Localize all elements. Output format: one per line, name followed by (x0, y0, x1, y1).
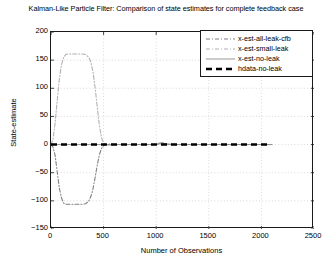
legend-item-x-est-small-leak[interactable]: x-est-small-leak (201, 44, 312, 54)
y-tick-0: 0 (2, 140, 48, 148)
x-tick-2500: 2500 (293, 232, 332, 240)
chart-title: Kalman-Like Particle Filter: Comparison … (0, 4, 332, 13)
legend-label: x-est-small-leak (238, 45, 288, 53)
legend[interactable]: x-est-all-leak-cfbx-est-small-leakx-est-… (200, 30, 313, 77)
legend-item-x-est-no-leak[interactable]: x-est-no-leak (201, 54, 312, 64)
legend-item-x-est-all-leak-cfb[interactable]: x-est-all-leak-cfb (201, 34, 312, 44)
y-tick-50: 50 (2, 111, 48, 119)
legend-item-hdata-no-leak[interactable]: hdata-no-leak (201, 64, 312, 74)
x-tick-1500: 1500 (188, 232, 228, 240)
x-axis-label: Number of Observations (50, 246, 313, 255)
x-tick-0: 0 (30, 232, 70, 240)
legend-line-sample-icon (205, 44, 236, 54)
x-tick-500: 500 (83, 232, 123, 240)
series-x-est-all-leak-cfb (51, 142, 272, 204)
x-tick-1000: 1000 (135, 232, 175, 240)
y-tick-100: 100 (2, 83, 48, 91)
x-axis-tick-labels: 05001000150020002500 (50, 232, 313, 244)
y-tick--50: −50 (2, 168, 48, 176)
y-axis-tick-labels: −150−100−50050100150200 (0, 31, 48, 228)
x-tick-2000: 2000 (240, 232, 280, 240)
legend-line-sample-icon (205, 34, 236, 44)
legend-label: hdata-no-leak (238, 65, 282, 73)
legend-line-sample-icon (205, 64, 236, 74)
y-tick-200: 200 (2, 27, 48, 35)
legend-label: x-est-no-leak (238, 55, 280, 63)
legend-line-sample-icon (205, 54, 236, 64)
y-tick--150: −150 (2, 224, 48, 232)
figure-canvas: Kalman-Like Particle Filter: Comparison … (0, 0, 332, 267)
legend-label: x-est-all-leak-cfb (238, 35, 291, 43)
y-tick-150: 150 (2, 55, 48, 63)
y-tick--100: −100 (2, 196, 48, 204)
